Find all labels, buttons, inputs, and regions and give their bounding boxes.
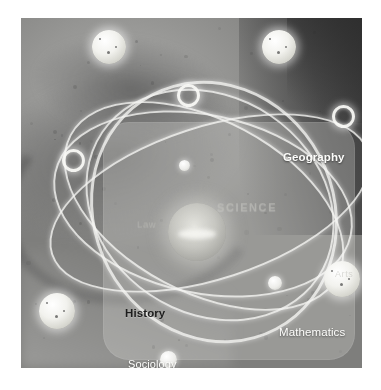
node-speck bbox=[277, 51, 281, 55]
dust-speck bbox=[73, 85, 77, 89]
label-science: SCIENCE bbox=[217, 201, 277, 213]
dust-speck bbox=[80, 110, 82, 112]
node-speck bbox=[55, 315, 59, 319]
dust-speck bbox=[135, 40, 138, 43]
dust-speck bbox=[160, 54, 162, 56]
node-speck bbox=[46, 302, 48, 304]
dust-speck bbox=[43, 337, 45, 339]
dust-speck bbox=[319, 111, 320, 112]
node-bottom-left bbox=[39, 293, 75, 329]
dust-speck bbox=[53, 130, 57, 134]
dust-speck bbox=[218, 27, 221, 30]
node-speck bbox=[63, 310, 65, 312]
node-speck bbox=[285, 46, 287, 48]
node-upper-mid bbox=[177, 84, 200, 107]
nucleus-core bbox=[178, 229, 215, 239]
node-speck bbox=[107, 51, 111, 55]
label-arts: Arts bbox=[335, 269, 353, 279]
node-left-mid bbox=[62, 149, 85, 172]
label-history: History bbox=[125, 307, 165, 319]
dust-speck bbox=[30, 122, 33, 125]
node-top-left bbox=[92, 30, 126, 64]
dust-speck bbox=[282, 100, 284, 102]
dust-speck bbox=[250, 52, 253, 55]
node-speck bbox=[115, 46, 117, 48]
node-speck bbox=[99, 38, 101, 40]
node-speck bbox=[331, 270, 333, 272]
dust-speck bbox=[151, 81, 155, 85]
label-mathematics: Mathematics bbox=[279, 326, 345, 338]
screenshot-canvas: GeographyMathematicsHistorySociologySCIE… bbox=[0, 0, 381, 390]
atom-diagram-image: GeographyMathematicsHistorySociologySCIE… bbox=[21, 18, 362, 368]
label-geography: Geography bbox=[283, 151, 345, 163]
node-right-large bbox=[324, 261, 360, 297]
dust-speck bbox=[87, 300, 90, 303]
label-sociology: Sociology bbox=[128, 358, 177, 368]
dust-speck bbox=[140, 65, 141, 66]
node-top-right bbox=[262, 30, 296, 64]
node-speck bbox=[340, 283, 344, 287]
dust-speck bbox=[26, 261, 30, 265]
dust-speck bbox=[61, 134, 63, 136]
dust-speck bbox=[313, 31, 316, 34]
node-speck bbox=[269, 38, 271, 40]
dust-speck bbox=[54, 139, 56, 141]
node-right-edge bbox=[332, 105, 355, 128]
dust-speck bbox=[87, 61, 90, 64]
node-inner-small bbox=[179, 160, 190, 171]
dust-speck bbox=[35, 303, 37, 305]
dust-speck bbox=[184, 55, 188, 59]
label-law: Law bbox=[137, 218, 156, 229]
node-mid-small bbox=[268, 276, 282, 290]
